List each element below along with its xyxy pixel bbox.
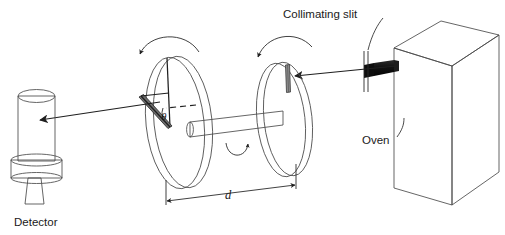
collimating-slit-leader — [368, 18, 383, 50]
oven-label: Oven — [362, 134, 390, 146]
collimating-slit-label: Collimating slit — [283, 8, 358, 20]
oven — [394, 21, 499, 205]
rotating-disk-near — [139, 53, 218, 191]
detector-collar — [11, 160, 62, 178]
detector-stem — [25, 178, 44, 204]
oven-leader — [397, 118, 404, 137]
beam-dashed-segment — [166, 105, 196, 108]
detector-body — [18, 96, 55, 161]
distance-label: d — [225, 188, 232, 202]
oven-side-face — [452, 35, 499, 205]
disk-far-rotation-arrow — [258, 36, 312, 57]
rotating-shaft — [187, 111, 283, 137]
shaft-rotation-arrow — [226, 143, 248, 155]
angle-theta-label: θ — [162, 111, 167, 122]
rotating-disk-far — [251, 60, 318, 179]
oven-top-face — [394, 21, 499, 66]
beam-to-detector — [40, 102, 160, 120]
detector-label: Detector — [14, 216, 58, 228]
disk-near-rotation-arrow — [140, 37, 199, 54]
diagram-canvas: Collimating slit Oven Detector d θ — [0, 0, 505, 235]
disk-near-face — [139, 54, 210, 191]
physics-diagram-figure: Collimating slit Oven Detector d θ — [0, 0, 505, 235]
detector — [11, 90, 62, 205]
disk-near-rim — [147, 53, 218, 190]
